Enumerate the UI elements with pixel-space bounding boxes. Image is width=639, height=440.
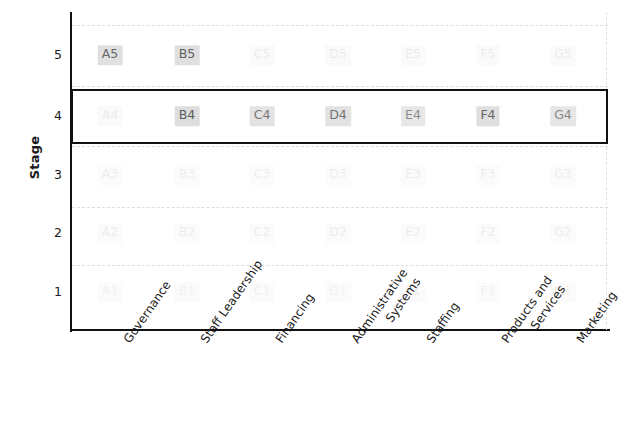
gridline-vertical-right <box>606 12 607 330</box>
y-tick-label-4: 4 <box>36 108 62 123</box>
gridline-horizontal-4 <box>72 207 608 208</box>
matrix-cell-b1: B1 <box>175 282 200 302</box>
x-tick-label-financing: Financing <box>272 290 318 346</box>
stage-4-highlight-box <box>71 89 608 144</box>
gridline-horizontal-3 <box>72 146 608 147</box>
matrix-cell-f1: F1 <box>476 282 499 302</box>
matrix-cell-d1: D1 <box>325 282 351 302</box>
matrix-cell-f3: F3 <box>476 165 499 185</box>
y-axis-line <box>70 12 72 332</box>
y-tick-label-3: 3 <box>36 167 62 182</box>
matrix-cell-f5: F5 <box>476 45 499 65</box>
matrix-cell-a5: A5 <box>98 45 123 65</box>
y-tick-label-2: 2 <box>36 225 62 240</box>
matrix-cell-d3: D3 <box>325 165 351 185</box>
matrix-cell-a3: A3 <box>98 165 123 185</box>
matrix-cell-g5: G5 <box>550 45 576 65</box>
x-tick-label-staffing: Staffing <box>423 299 463 346</box>
matrix-cell-d2: D2 <box>325 223 351 243</box>
y-axis-title: Stage <box>27 118 42 198</box>
matrix-cell-b5: B5 <box>175 45 200 65</box>
matrix-cell-c5: C5 <box>250 45 275 65</box>
gridline-horizontal-5 <box>72 265 608 266</box>
matrix-cell-e2: E2 <box>401 223 425 243</box>
matrix-cell-b3: B3 <box>175 165 200 185</box>
matrix-cell-a2: A2 <box>98 223 123 243</box>
gridline-horizontal-2 <box>72 86 608 87</box>
matrix-cell-e3: E3 <box>401 165 425 185</box>
matrix-cell-e5: E5 <box>401 45 425 65</box>
y-tick-label-5: 5 <box>36 47 62 62</box>
matrix-cell-f2: F2 <box>476 223 499 243</box>
y-tick-label-1: 1 <box>36 284 62 299</box>
matrix-cell-a1: A1 <box>98 282 123 302</box>
matrix-cell-d5: D5 <box>325 45 351 65</box>
matrix-cell-c1: C1 <box>250 282 275 302</box>
x-tick-label-governance: Governance <box>120 278 175 347</box>
matrix-cell-c2: C2 <box>250 223 275 243</box>
x-tick-label-administrative-systems: AdministrativeSystems <box>348 265 425 355</box>
matrix-cell-b2: B2 <box>175 223 200 243</box>
x-tick-label-marketing: Marketing <box>573 288 621 346</box>
stage-matrix-chart: Stage 54321 A5B5C5D5E5F5G5A4B4C4D4E4F4G4… <box>0 0 639 440</box>
x-tick-label-products-and-services: Products andServices <box>498 273 569 356</box>
matrix-cell-g3: G3 <box>550 165 576 185</box>
gridline-horizontal-1 <box>72 25 608 26</box>
matrix-cell-c3: C3 <box>250 165 275 185</box>
matrix-cell-g2: G2 <box>550 223 576 243</box>
